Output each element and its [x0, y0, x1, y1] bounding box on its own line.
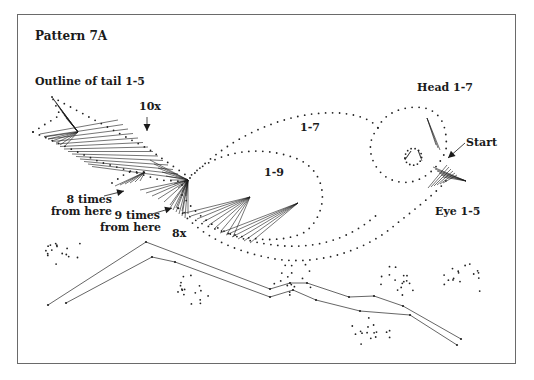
head-circle-dot	[412, 181, 414, 183]
tail-lower-edge-dot	[58, 111, 60, 113]
flower-mid-dot	[286, 285, 288, 287]
branch-nail	[269, 296, 271, 298]
flower-left-dot	[66, 248, 68, 250]
body-inner-wing-dot	[234, 152, 236, 154]
flower-mid-dot	[309, 270, 311, 272]
flower-bottom-dot	[389, 337, 391, 339]
tail-lower-edge-dot	[38, 127, 40, 129]
body-inner-wing-dot	[214, 228, 216, 230]
sprig-right-dot	[464, 265, 466, 267]
tail-upper-feather-dot	[113, 129, 115, 131]
head-circle-dot	[439, 160, 441, 162]
flower-bottom-dot	[355, 333, 357, 335]
tail-bottom-edge-dot	[39, 134, 41, 136]
head-circle-dot	[385, 176, 387, 178]
body-inner-wing-dot	[317, 176, 319, 178]
body-inner-wing-dot	[221, 156, 223, 158]
flower-left-dot	[50, 244, 52, 246]
body-inner-wing-dot	[302, 161, 304, 163]
flower-bottom-dot	[370, 337, 372, 339]
body-belly-dot	[392, 226, 394, 228]
body-belly-dot	[274, 258, 276, 260]
thread-line	[244, 203, 298, 241]
flower-right-dot	[389, 266, 391, 268]
head-circle-dot	[430, 171, 432, 173]
head-circle-dot	[405, 181, 407, 183]
thread-line	[52, 134, 133, 142]
body-inner-wing-dot	[308, 165, 310, 167]
tail-bottom-edge-dot	[96, 160, 98, 162]
sprig-right-dot	[478, 272, 480, 274]
flower-right-dot	[389, 274, 391, 276]
branch-nail	[306, 282, 308, 284]
tail-upper-feather-dot	[94, 119, 96, 121]
tail-upper-feather-dot	[119, 133, 121, 135]
body-belly-dot	[177, 207, 179, 209]
head-circle-dot	[445, 134, 447, 136]
body-inner-wing-dot	[196, 170, 198, 172]
body-belly-dot	[363, 244, 365, 246]
body-belly-inner-dot	[352, 231, 354, 233]
body-belly-dot	[445, 180, 447, 182]
body-inner-wing-dot	[208, 226, 210, 228]
head-circle-dot	[385, 116, 387, 118]
body-belly-inner-dot	[305, 245, 307, 247]
label-eye: Eye 1-5	[435, 206, 480, 218]
head-circle-dot	[418, 106, 420, 108]
tail-bottom-edge-dot	[103, 162, 105, 164]
tail-upper-feather-dot	[51, 96, 53, 98]
tail-bottom-edge-dot	[170, 180, 172, 182]
sprig-right-dot	[452, 279, 454, 281]
flower-left-dot	[56, 244, 58, 246]
thread-line	[227, 197, 250, 234]
body-inner-wing-dot	[202, 165, 204, 167]
label-nine-times: 9 times from here	[100, 210, 160, 234]
thread-line	[226, 203, 298, 235]
eye-dot	[405, 153, 407, 155]
body-belly-dot	[309, 259, 311, 261]
head-circle-dot	[441, 120, 443, 122]
body-belly-inner-dot	[195, 210, 197, 212]
thread-line	[66, 118, 78, 132]
body-belly-inner-dot	[339, 237, 341, 239]
flower-mid-dot	[284, 264, 286, 266]
branch-nail	[292, 289, 294, 291]
flower-right-dot	[412, 289, 414, 291]
sprig-right-dot	[473, 273, 475, 275]
tail-upper-feather-dot	[63, 103, 65, 105]
thread-line	[418, 150, 422, 161]
flower-bottom-dot	[375, 336, 377, 338]
flower-left-dot	[47, 253, 49, 255]
sprig-right-dot	[448, 279, 450, 281]
body-belly-dot	[192, 222, 194, 224]
branch-nail	[65, 302, 67, 304]
body-belly-dot	[267, 257, 269, 259]
body-belly-dot	[187, 218, 189, 220]
body-belly-dot	[369, 241, 371, 243]
body-belly-dot	[281, 259, 283, 261]
flower-right-dot	[397, 289, 399, 291]
body-belly-inner-dot	[256, 241, 258, 243]
head-circle-dot	[391, 112, 393, 114]
body-inner-wing-dot	[317, 216, 319, 218]
eye-dot	[410, 148, 412, 150]
body-inner-wing-dot	[191, 174, 193, 176]
flower-under-branch-dot	[177, 291, 179, 293]
body-belly-dot	[330, 256, 332, 258]
sprig-right-dot	[452, 268, 454, 270]
body-top-dot	[339, 112, 341, 114]
body-inner-wing-dot	[322, 196, 324, 198]
body-inner-wing-dot	[186, 179, 188, 181]
tail-upper-feather-dot	[178, 170, 180, 172]
head-circle-dot	[391, 179, 393, 181]
branch-nail	[348, 296, 350, 298]
body-top-dot	[304, 114, 306, 116]
flower-under-branch-dot	[207, 295, 209, 297]
body-belly-inner-dot	[211, 223, 213, 225]
body-top-dot	[366, 118, 368, 120]
flower-under-branch-dot	[190, 275, 192, 277]
thread-line	[60, 143, 143, 147]
flower-bottom-dot	[360, 330, 362, 332]
body-top-dot	[227, 146, 229, 148]
flower-right-dot	[403, 275, 405, 277]
